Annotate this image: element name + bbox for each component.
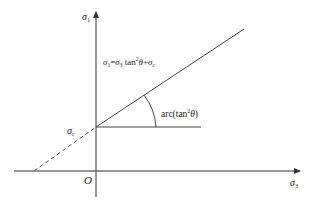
x-axis-label: σ3 bbox=[290, 177, 298, 189]
diagram-canvas: σ1 σ3 O σc σ1=σ3 tan2θ+σc arc(tan2θ) bbox=[0, 0, 309, 206]
angle-label: arc(tan2θ) bbox=[161, 108, 198, 120]
origin-label: O bbox=[84, 174, 92, 186]
intercept-label: σc bbox=[67, 125, 75, 137]
y-axis-label: σ1 bbox=[82, 11, 90, 23]
equation-label: σ1=σ3 tan2θ+σc bbox=[103, 56, 155, 68]
envelope-dashed-extension bbox=[34, 127, 96, 171]
angle-arc bbox=[144, 95, 156, 127]
